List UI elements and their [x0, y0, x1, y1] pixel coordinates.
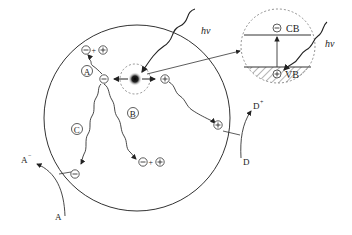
- pathway-b-label: B: [130, 109, 136, 119]
- photon-wave-main: [142, 9, 195, 72]
- pathway-b-wave: [104, 84, 136, 159]
- pathway-c-label: C: [74, 125, 80, 135]
- vb-label: VB: [285, 69, 299, 80]
- donor-oxidation-curve: [241, 111, 251, 158]
- acceptor-reduced-sup: −: [28, 152, 32, 158]
- plus-a: +: [92, 46, 97, 55]
- acceptor-label: A: [55, 212, 62, 222]
- donor-label: D: [243, 157, 250, 167]
- excitation-center: [128, 72, 142, 86]
- band-diagram-inset: CB VB: [240, 9, 316, 87]
- photocatalysis-diagram: hν + A + B C A − A D + D: [0, 0, 352, 235]
- zoom-pointer-line: [147, 51, 240, 74]
- donor-oxidized-sup: +: [260, 99, 264, 105]
- cb-label: CB: [286, 23, 300, 34]
- semiconductor-particle: [44, 25, 230, 211]
- donor-contact-line: [223, 131, 240, 135]
- plus-b: +: [149, 158, 154, 167]
- photon-label-inset: hν: [325, 38, 335, 49]
- pathway-c-wave: [81, 84, 101, 164]
- photon-label-main: hν: [201, 25, 211, 36]
- hole-migration-wave: [169, 82, 215, 123]
- acceptor-reduced-label: A: [21, 155, 28, 165]
- donor-oxidized-label: D: [253, 101, 260, 111]
- pathway-a-label: A: [84, 67, 91, 77]
